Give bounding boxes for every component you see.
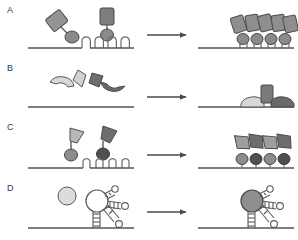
bound-ellipses bbox=[236, 154, 290, 165]
free-flag-probe-light bbox=[65, 128, 85, 161]
figure-canvas: A B C D bbox=[0, 0, 298, 240]
figure-svg bbox=[0, 0, 298, 240]
probe-rectangle-icon bbox=[100, 8, 114, 25]
free-flag-probe-dark bbox=[97, 126, 118, 160]
probe-ellipse-icon bbox=[101, 29, 114, 41]
hairpin-loops-group bbox=[83, 159, 129, 168]
bound-complex-group bbox=[230, 14, 298, 48]
assembled-complex bbox=[241, 85, 294, 107]
free-probe-tilted bbox=[45, 9, 79, 43]
panel-b bbox=[28, 70, 294, 107]
probe-rectangle-icon bbox=[45, 9, 68, 32]
free-fragment-crescent-light bbox=[50, 77, 74, 87]
probe-ellipse-icon bbox=[65, 31, 79, 43]
free-fragment-wedge-dark bbox=[89, 73, 103, 87]
ligand-circle-free bbox=[58, 187, 76, 205]
panel-c bbox=[28, 126, 294, 168]
panel-d bbox=[28, 186, 294, 228]
aptamer-unbound bbox=[86, 186, 128, 228]
free-fragment-crescent-dark bbox=[101, 82, 125, 91]
dna-strand-left bbox=[28, 37, 134, 48]
flag-shape-icon bbox=[70, 128, 84, 143]
bound-ellipses bbox=[237, 34, 291, 45]
aptamer-stem bbox=[93, 211, 100, 228]
free-probe-upright bbox=[100, 8, 114, 41]
probe-ellipse-icon bbox=[65, 149, 78, 161]
aptamer-stem bbox=[248, 211, 255, 228]
aptamer-bound bbox=[241, 186, 283, 228]
dna-strand-left bbox=[28, 159, 134, 168]
flag-shape-icon bbox=[101, 126, 117, 143]
panel-a bbox=[28, 8, 298, 48]
crescent-dark-bound bbox=[271, 97, 294, 107]
bound-pair-group bbox=[234, 132, 292, 168]
bound-rectangles bbox=[230, 14, 298, 34]
bound-flags bbox=[234, 132, 292, 151]
free-fragment-wedge-light bbox=[73, 70, 86, 87]
